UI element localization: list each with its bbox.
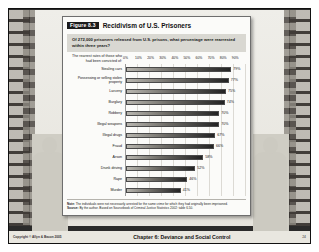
bar-value-label: 41% (183, 188, 190, 192)
footer-chapter-title: Chapter 6: Deviance and Social Control (133, 234, 230, 240)
figure-notes: Note: The individuals were not necessari… (67, 199, 246, 211)
footer-copyright: Copyright © Allyn & Bacon 2005 (13, 235, 62, 239)
bar-value-label: 79% (233, 67, 240, 71)
figure-title: Recidivism of U.S. Prisoners (103, 22, 192, 29)
presentation-slide: Figure 8.3 Recidivism of U.S. Prisoners … (0, 0, 319, 252)
figure-source-text: By the author. Based on Sourcebook of Cr… (79, 206, 193, 210)
bar (126, 155, 203, 161)
x-axis-tick: 0% (123, 56, 135, 64)
slide-footer: Copyright © Allyn & Bacon 2005 Chapter 6… (9, 231, 310, 243)
silhouette-head (263, 137, 278, 154)
figure-card: Figure 8.3 Recidivism of U.S. Prisoners … (62, 16, 251, 216)
category-label: Fraud (67, 141, 122, 152)
bar-column: 79%77%75%74%70%70%67%66%58%52%46%41% (125, 64, 246, 196)
category-label: Larceny (67, 86, 122, 97)
bar (126, 111, 219, 117)
bar-value-label: 75% (228, 89, 235, 93)
x-axis-tick: 30% (159, 56, 171, 64)
figure-source-label: Source: (67, 206, 79, 210)
bar-row: 58% (126, 152, 246, 163)
bar-row: 70% (126, 119, 246, 130)
x-axis-tick: 90% (232, 56, 244, 64)
category-label: Murder (67, 185, 122, 196)
bar-row: 77% (126, 75, 246, 86)
bar (126, 188, 181, 194)
figure-number-badge: Figure 8.3 (67, 22, 99, 29)
bar (126, 100, 225, 106)
bar-value-label: 74% (227, 100, 234, 104)
chart-axis-row: The rearrest rates of those who had been… (67, 54, 246, 64)
x-axis-tick: 60% (196, 56, 208, 64)
bar-value-label: 70% (221, 122, 228, 126)
category-label-column: Stealing carsPossessing or selling stole… (67, 64, 125, 196)
category-label: Possessing or selling stolen property (67, 75, 122, 86)
bar (126, 122, 219, 128)
bar (126, 144, 214, 150)
y-axis-heading: The rearrest rates of those who had been… (67, 54, 125, 64)
chart: The rearrest rates of those who had been… (67, 54, 246, 196)
bar-value-label: 66% (216, 144, 223, 148)
x-axis-tick: 10% (135, 56, 147, 64)
x-axis-tick: 20% (147, 56, 159, 64)
bar-row: 79% (126, 64, 246, 75)
x-axis-tick-labels: 0%10%20%30%40%50%60%70%80%90% (125, 56, 246, 64)
figure-header: Figure 8.3 Recidivism of U.S. Prisoners (67, 20, 246, 31)
bar-row: 70% (126, 108, 246, 119)
bar-value-label: 77% (231, 78, 238, 82)
category-label: Rape (67, 174, 122, 185)
category-label: Stealing cars (67, 64, 122, 75)
bar (126, 89, 226, 95)
x-axis-tick: 80% (220, 56, 232, 64)
plot-area: Stealing carsPossessing or selling stole… (67, 64, 246, 196)
footer-page-number: 24 (302, 235, 306, 239)
category-label: Robbery (67, 108, 122, 119)
category-label: Illegal drugs (67, 130, 122, 141)
bar-row: 41% (126, 185, 246, 196)
bar-value-label: 67% (217, 133, 224, 137)
silhouette-body (32, 152, 66, 238)
x-axis-tick: 50% (183, 56, 195, 64)
bar-value-label: 58% (205, 155, 212, 159)
category-label: Burglary (67, 97, 122, 108)
bar-row: 66% (126, 141, 246, 152)
bar (126, 67, 231, 73)
bar-row: 75% (126, 86, 246, 97)
x-axis-tick: 40% (171, 56, 183, 64)
category-label: Drunk driving (67, 163, 122, 174)
bar (126, 166, 195, 172)
bar (126, 177, 187, 183)
bar (126, 78, 229, 84)
figure-source: Source: By the author. Based on Sourcebo… (67, 206, 246, 210)
bar-row: 46% (126, 174, 246, 185)
bar-row: 74% (126, 97, 246, 108)
silhouette-body (253, 152, 287, 238)
silhouette-head (42, 137, 57, 154)
figure-question-band: Of 272,000 prisoners released from U.S. … (67, 34, 246, 52)
bar (126, 133, 215, 139)
bar-value-label: 52% (197, 166, 204, 170)
silhouette-figure-right (253, 134, 289, 238)
x-axis-tick: 70% (208, 56, 220, 64)
bar-value-label: 46% (189, 177, 196, 181)
category-label: Illegal weapons (67, 119, 122, 130)
bar-row: 67% (126, 130, 246, 141)
bar-row: 52% (126, 163, 246, 174)
bar-value-label: 70% (221, 111, 228, 115)
category-label: Arson (67, 152, 122, 163)
